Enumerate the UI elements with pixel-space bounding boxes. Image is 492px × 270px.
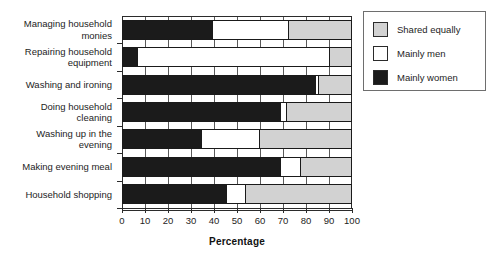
legend-item-1: Mainly men — [373, 46, 446, 61]
stacked-bar-0 — [122, 20, 352, 40]
bar-row — [122, 157, 352, 177]
category-label-5: Making evening meal — [0, 161, 112, 173]
bar-row — [122, 20, 352, 40]
x-axis-tick-100 — [352, 208, 353, 213]
stacked-bar-chart: Managing household moniesRepairing house… — [0, 0, 492, 270]
bar-segment-shared — [301, 158, 351, 176]
x-axis-tick-50 — [237, 208, 238, 213]
stacked-bar-6 — [122, 184, 352, 204]
legend-swatch-men — [373, 46, 388, 61]
category-label-2: Washing and ironing — [0, 79, 112, 91]
y-axis-tick-4 — [117, 126, 123, 127]
legend-swatch-shared — [373, 22, 388, 37]
x-axis-title: Percentage — [122, 236, 352, 247]
bar-segment-men — [201, 130, 260, 148]
legend-label-2: Mainly women — [397, 72, 458, 83]
stacked-bar-5 — [122, 157, 352, 177]
legend-item-2: Mainly women — [373, 70, 458, 85]
legend-label-1: Mainly men — [397, 48, 446, 59]
bar-row — [122, 129, 352, 149]
bar-segment-men — [226, 185, 247, 203]
bar-segment-shared — [287, 103, 351, 121]
bar-row — [122, 102, 352, 122]
bar-segment-men — [280, 158, 301, 176]
legend-item-0: Shared equally — [373, 22, 460, 37]
bar-segment-men — [280, 103, 287, 121]
category-label-6: Household shopping — [0, 189, 112, 201]
y-axis-tick-3 — [117, 98, 123, 99]
bar-segment-women — [123, 48, 137, 66]
bar-row — [122, 47, 352, 67]
bar-segment-men — [212, 21, 290, 39]
legend-swatch-women — [373, 70, 388, 85]
bar-segment-shared — [289, 21, 351, 39]
stacked-bar-1 — [122, 47, 352, 67]
y-axis-tick-7 — [117, 208, 123, 209]
x-axis-tick-60 — [260, 208, 261, 213]
x-axis-tick-40 — [214, 208, 215, 213]
x-axis-tick-10 — [145, 208, 146, 213]
x-axis-tick-20 — [168, 208, 169, 213]
y-axis-tick-2 — [117, 71, 123, 72]
bar-segment-women — [123, 21, 212, 39]
y-axis-category-labels: Managing household moniesRepairing house… — [0, 16, 116, 208]
bar-row — [122, 184, 352, 204]
bar-segment-men — [137, 48, 331, 66]
bar-segment-women — [123, 103, 280, 121]
x-axis-tick-90 — [329, 208, 330, 213]
stacked-bar-3 — [122, 102, 352, 122]
x-axis-tick-80 — [306, 208, 307, 213]
plot-area — [122, 16, 352, 208]
bar-segment-women — [123, 130, 201, 148]
legend-label-0: Shared equally — [397, 24, 460, 35]
category-label-4: Washing up in the evening — [0, 128, 112, 151]
bar-segment-shared — [260, 130, 351, 148]
category-label-1: Repairing household equipment — [0, 46, 112, 69]
category-label-0: Managing household monies — [0, 18, 112, 41]
y-axis-tick-5 — [117, 153, 123, 154]
legend: Shared equallyMainly menMainly women — [363, 11, 486, 91]
plot-border-top — [122, 16, 352, 17]
bar-segment-women — [123, 158, 280, 176]
bar-segment-women — [123, 76, 315, 94]
bar-segment-shared — [330, 48, 351, 66]
bar-segment-shared — [319, 76, 351, 94]
bar-segment-women — [123, 185, 226, 203]
bar-segment-shared — [246, 185, 351, 203]
stacked-bar-4 — [122, 129, 352, 149]
y-axis-tick-6 — [117, 181, 123, 182]
category-label-3: Doing household cleaning — [0, 101, 112, 124]
x-axis-tick-label-100: 100 — [339, 215, 365, 226]
x-axis-tick-70 — [283, 208, 284, 213]
x-axis-tick-30 — [191, 208, 192, 213]
y-axis-tick-1 — [117, 43, 123, 44]
stacked-bar-2 — [122, 75, 352, 95]
bar-row — [122, 75, 352, 95]
